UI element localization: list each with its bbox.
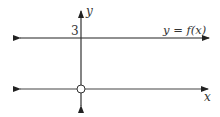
y-tick-label-3: 3: [71, 25, 79, 37]
y-axis-label: y: [86, 5, 93, 17]
x-axis-label: x: [204, 91, 211, 103]
curve-label: y = f(x): [163, 24, 206, 36]
open-circle-icon: [77, 85, 85, 93]
function-diagram: [0, 0, 220, 117]
